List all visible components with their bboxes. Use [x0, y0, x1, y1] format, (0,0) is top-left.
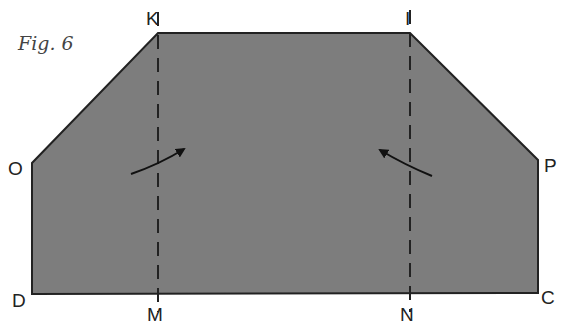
vertex-label-c: C [541, 287, 555, 308]
vertex-label-n: N [400, 304, 414, 325]
folding-diagram: Fig. 6 K I O P D C M N [0, 0, 569, 332]
figure-caption: Fig. 6 [17, 32, 74, 54]
vertex-label-o: O [8, 158, 23, 179]
panel-shape [32, 33, 538, 294]
vertex-label-d: D [12, 290, 26, 311]
vertex-label-m: M [147, 304, 163, 325]
vertex-label-i: I [405, 8, 410, 29]
vertex-label-p: P [544, 155, 557, 176]
vertex-label-k: K [146, 8, 159, 29]
